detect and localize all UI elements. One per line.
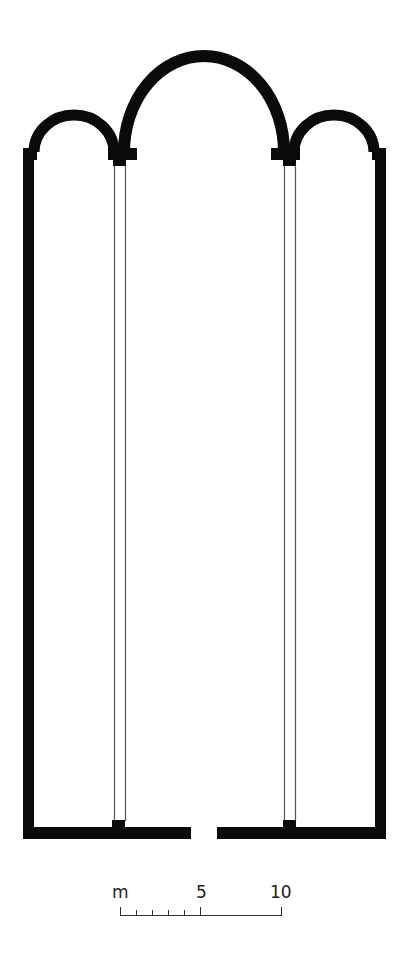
bottom-wall-right bbox=[217, 827, 386, 839]
scale-mid-label: 5 bbox=[196, 884, 207, 901]
left-colonnade bbox=[112, 166, 126, 828]
floor-plan bbox=[0, 0, 402, 954]
scale-unit-label: m bbox=[112, 884, 129, 901]
right-colonnade bbox=[283, 166, 296, 828]
left-pier-base bbox=[113, 158, 126, 166]
left-wall bbox=[23, 150, 34, 839]
scale-end-label: 10 bbox=[270, 884, 292, 901]
central-apse bbox=[124, 56, 284, 152]
left-apse bbox=[34, 115, 114, 152]
right-pier-base bbox=[283, 158, 296, 166]
scale-bar bbox=[120, 907, 282, 916]
right-wall bbox=[375, 150, 386, 839]
right-apse-springer bbox=[372, 148, 386, 160]
left-apse-springer bbox=[23, 148, 37, 160]
right-apse bbox=[294, 115, 374, 152]
bottom-wall-left bbox=[23, 827, 191, 839]
